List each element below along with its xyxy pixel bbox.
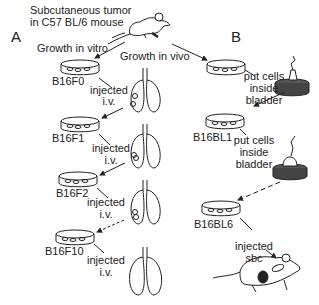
growth-in-vitro-label: Growth in vitro xyxy=(37,42,108,54)
sbc-line2: sbc xyxy=(232,252,276,264)
dish-b16f10 xyxy=(56,230,94,245)
inj2-line1: injected xyxy=(89,142,133,154)
lungs-4 xyxy=(130,247,162,295)
lungs-3 xyxy=(131,180,160,224)
cell-line-b16bl1: B16BL1 xyxy=(193,131,232,143)
lungs-1 xyxy=(131,68,161,112)
put2-line2: inside xyxy=(230,146,278,158)
header-line-1: Subcutaneous tumor xyxy=(30,4,132,16)
panel-label-a: A xyxy=(11,31,21,43)
inj3-line2: i.v. xyxy=(84,208,128,220)
sbc-line1: injected xyxy=(232,240,276,252)
inj4-line2: i.v. xyxy=(84,266,128,278)
cell-line-b16f10: B16F10 xyxy=(45,245,84,257)
dish-b16bl6 xyxy=(202,201,240,216)
put1-line1: put cells xyxy=(240,70,288,82)
put2-line1: put cells xyxy=(230,134,278,146)
put1-line3: bladder xyxy=(240,94,288,106)
dish-b16f0 xyxy=(61,60,99,75)
inj1-line2: i.v. xyxy=(87,95,131,107)
inj3-line1: injected xyxy=(84,196,128,208)
cell-line-b16bl6: B16BL6 xyxy=(194,218,233,230)
dish-b16bl1 xyxy=(206,114,244,129)
metastasis-selection-diagram: Subcutaneous tumor in C57 BL/6 mouse A B… xyxy=(0,0,319,305)
header-line-2: in C57 BL/6 mouse xyxy=(30,16,124,28)
lungs-2 xyxy=(131,124,160,168)
dish-b16f2 xyxy=(59,172,97,187)
bladder-dish-2 xyxy=(273,136,307,180)
inj2-line2: i.v. xyxy=(89,154,133,166)
put2-line3: bladder xyxy=(230,158,278,170)
panel-label-b: B xyxy=(231,31,241,43)
cell-line-b16f1: B16F1 xyxy=(52,132,84,144)
cell-line-b16f0: B16F0 xyxy=(52,75,84,87)
growth-in-vivo-label: Growth in vivo xyxy=(120,50,190,62)
inj4-line1: injected xyxy=(84,254,128,266)
put1-line2: inside xyxy=(240,82,288,94)
dish-b16f1 xyxy=(61,117,99,132)
